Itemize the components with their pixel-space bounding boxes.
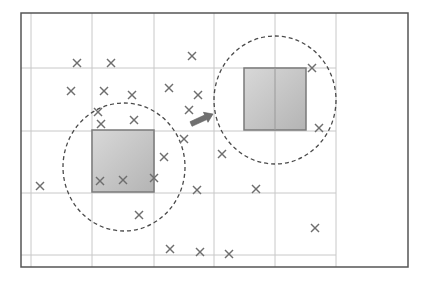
cross-marker — [128, 91, 136, 99]
cross-marker — [225, 250, 233, 258]
cross-marker — [165, 84, 173, 92]
cross-marker — [100, 87, 108, 95]
cross-marker — [166, 245, 174, 253]
cross-marker — [107, 59, 115, 67]
cross-marker — [188, 52, 196, 60]
diagram-canvas — [0, 0, 424, 300]
cross-marker — [36, 182, 44, 190]
cross-marker — [67, 87, 75, 95]
motion-arrow — [190, 112, 213, 126]
cross-marker — [218, 150, 226, 158]
feature-squares — [92, 68, 306, 192]
cross-marker — [73, 59, 81, 67]
grid-lines — [21, 13, 336, 267]
cross-marker — [160, 153, 168, 161]
cross-marker — [194, 91, 202, 99]
arrow-icon — [190, 112, 213, 126]
cross-marker — [135, 211, 143, 219]
cross-marker — [252, 185, 260, 193]
cross-marker — [97, 120, 105, 128]
cross-marker — [180, 135, 188, 143]
cross-marker — [311, 224, 319, 232]
cross-marker — [130, 116, 138, 124]
cross-marker — [185, 106, 193, 114]
